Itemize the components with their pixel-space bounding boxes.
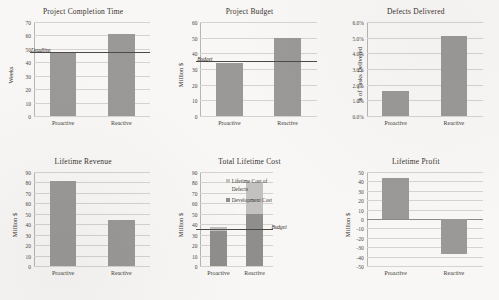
chart-panel-total-lifetime-cost: Total Lifetime Cost Million $ 90 80 70 6… [166, 150, 332, 300]
y-tick-label: 20 [26, 87, 31, 93]
y-axis-label: Million $ [177, 213, 184, 237]
y-tick-label: 0 [28, 264, 31, 270]
y-tick-label: 20 [192, 243, 197, 249]
bar-slot-reactive: Reactive [259, 22, 317, 116]
plot-area: 50 40 30 20 10 0 -10 -20 -30 -40 -50 Pro… [367, 172, 483, 266]
x-tick-label: Proactive [34, 270, 92, 276]
legend-label: Development Cost [232, 197, 272, 205]
bar-series: Proactive Reactive [34, 172, 150, 266]
y-axis-label: Million $ [343, 213, 350, 237]
bar-proactive-development-cost[interactable] [210, 231, 227, 266]
legend-item-defect-cost[interactable]: Lifetime Cost of Defects [226, 178, 282, 194]
chart-title: Lifetime Revenue [0, 157, 166, 166]
deadline-reference-line: Deadline [30, 52, 150, 53]
chart-title: Project Completion Time [0, 7, 166, 16]
y-tick-label: 30 [26, 233, 31, 239]
y-tick-label: 20 [26, 243, 31, 249]
x-tick-label: Proactive [367, 270, 425, 276]
bar-reactive[interactable] [441, 36, 468, 116]
chart-panel-lifetime-profit: Lifetime Profit Million $ 50 40 30 20 10… [333, 150, 499, 300]
y-tick-label: 10 [192, 254, 197, 260]
bar-slot-reactive: Reactive [425, 172, 483, 266]
budget-reference-line: Budget [196, 61, 316, 62]
chart-title: Total Lifetime Cost [166, 157, 332, 166]
bar-slot-proactive: Proactive [367, 172, 425, 266]
y-tick-label: 70 [26, 191, 31, 197]
y-tick-label: 90 [26, 170, 31, 176]
y-tick-label: 6.0% [352, 20, 363, 26]
y-tick-label: 0.0% [352, 114, 363, 120]
y-tick-label: -10 [356, 226, 363, 232]
y-tick-label: 90 [192, 170, 197, 176]
chart-panel-project-completion-time: Project Completion Time Weeks 70 60 50 4… [0, 0, 166, 150]
y-tick-label: 30 [358, 189, 363, 195]
y-tick-label: 60 [192, 201, 197, 207]
bar-slot-reactive: Reactive [425, 22, 483, 116]
y-axis-label: Million $ [177, 63, 184, 87]
budget-reference-label: Budget [197, 56, 212, 62]
y-tick-label: 50 [26, 212, 31, 218]
chart-title: Lifetime Profit [333, 157, 499, 166]
bar-proactive[interactable] [216, 63, 243, 116]
bar-proactive[interactable] [50, 53, 77, 116]
y-tick-label: -40 [356, 255, 363, 261]
y-axis-label: Weeks [7, 66, 14, 83]
bar-series: Proactive Reactive [367, 22, 483, 116]
plot-area: 70 60 50 40 30 20 10 0 Proactive Reactiv… [34, 22, 150, 116]
chart-title: Project Budget [166, 7, 332, 16]
plot-area: 60 50 40 30 20 10 0 Proactive Reactive B… [200, 22, 316, 116]
legend-swatch-icon [226, 179, 230, 183]
y-tick-label: 0 [195, 114, 198, 120]
y-tick-label: 30 [192, 233, 197, 239]
x-tick-label: Reactive [425, 270, 483, 276]
plot-area: 6.0% 5.0% 4.0% 3.0% 2.0% 1.0% 0.0% Proac… [367, 22, 483, 116]
legend-item-development-cost[interactable]: Development Cost [226, 197, 282, 205]
y-tick-label: 60 [26, 33, 31, 39]
bar-reactive[interactable] [441, 219, 468, 254]
bar-reactive[interactable] [274, 38, 301, 116]
x-tick-label: Proactive [200, 270, 236, 276]
x-tick-label: Proactive [367, 120, 425, 126]
y-tick-label: 50 [192, 212, 197, 218]
bar-series: Proactive Reactive [200, 22, 316, 116]
legend-label: Lifetime Cost of Defects [232, 178, 282, 194]
bar-proactive[interactable] [382, 91, 409, 116]
bar-reactive[interactable] [108, 34, 135, 116]
bar-reactive-development-cost[interactable] [246, 214, 263, 266]
y-tick-label: 70 [192, 191, 197, 197]
x-tick-label: Reactive [259, 120, 317, 126]
x-tick-label: Reactive [237, 270, 273, 276]
chart-grid: Project Completion Time Weeks 70 60 50 4… [0, 0, 499, 300]
y-tick-label: 0 [361, 217, 364, 223]
y-tick-label: 2.0% [352, 83, 363, 89]
x-tick-label: Reactive [92, 120, 150, 126]
y-axis-label: Million $ [11, 213, 18, 237]
plot-area: 90 80 70 60 50 40 30 20 10 0 Proactive R… [200, 172, 272, 266]
y-tick-label: 30 [192, 67, 197, 73]
y-tick-label: 3.0% [352, 67, 363, 73]
y-tick-label: 10 [358, 208, 363, 214]
bar-reactive[interactable] [108, 220, 135, 266]
y-tick-label: 0 [28, 114, 31, 120]
y-tick-label: 40 [358, 179, 363, 185]
chart-panel-lifetime-revenue: Lifetime Revenue Million $ 90 80 70 60 5… [0, 150, 166, 300]
bar-proactive[interactable] [50, 181, 77, 266]
x-tick-label: Proactive [200, 120, 258, 126]
budget-reference-label: Budget [271, 224, 286, 230]
deadline-reference-label: Deadline [31, 47, 51, 53]
budget-reference-line: Budget [196, 229, 272, 230]
y-tick-label: 50 [358, 170, 363, 176]
y-tick-label: -20 [356, 236, 363, 242]
bar-slot-proactive: Proactive [367, 22, 425, 116]
y-tick-label: 10 [26, 254, 31, 260]
bar-slot-reactive: Reactive [92, 172, 150, 266]
y-tick-label: 60 [192, 20, 197, 26]
chart-title: Defects Delivered [333, 7, 499, 16]
x-tick-label: Proactive [34, 120, 92, 126]
chart-panel-defects-delivered: Defects Delivered % of Tasks Delivered 6… [333, 0, 499, 150]
chart-legend: Lifetime Cost of Defects Development Cos… [226, 178, 282, 207]
plot-area: 90 80 70 60 50 40 30 20 10 0 Proactive R… [34, 172, 150, 266]
bar-proactive[interactable] [382, 178, 409, 219]
y-tick-label: 10 [192, 98, 197, 104]
y-tick-label: 10 [26, 101, 31, 107]
